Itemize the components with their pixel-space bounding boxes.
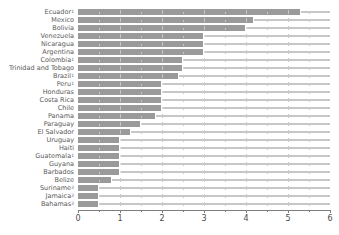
grid-tick <box>246 122 247 126</box>
grid-tick <box>141 204 142 206</box>
bar <box>78 121 141 127</box>
bar-row <box>78 128 330 136</box>
bar-row <box>78 160 330 168</box>
grid-tick <box>246 146 247 150</box>
grid-tick <box>99 204 100 206</box>
grid-tick <box>99 148 100 150</box>
category-label: Argentina <box>0 48 76 56</box>
grid-tick <box>99 12 100 14</box>
grid-tick <box>246 42 247 46</box>
grid-tick <box>225 36 226 38</box>
grid-tick <box>183 92 184 94</box>
grid-tick <box>183 164 184 166</box>
grid-tick <box>267 92 268 94</box>
grid-tick <box>267 68 268 70</box>
grid-tick <box>141 68 142 70</box>
grid-tick <box>162 170 163 174</box>
grid-tick <box>246 154 247 158</box>
grid-tick <box>246 50 247 54</box>
bar-row <box>78 200 330 208</box>
grid-tick <box>120 66 121 70</box>
grid-tick <box>141 100 142 102</box>
grid-tick <box>225 60 226 62</box>
grid-tick <box>120 130 121 134</box>
grid-tick <box>225 108 226 110</box>
bar-row <box>78 80 330 88</box>
grid-tick <box>141 124 142 126</box>
grid-tick <box>288 202 289 206</box>
bar-row <box>78 136 330 144</box>
grid-tick <box>204 130 205 134</box>
grid-tick <box>162 42 163 46</box>
bar-row <box>78 104 330 112</box>
grid-tick <box>309 116 310 118</box>
grid-tick <box>183 204 184 206</box>
grid-tick <box>183 12 184 14</box>
grid-tick <box>120 26 121 30</box>
grid-tick <box>204 154 205 158</box>
bar-row <box>78 96 330 104</box>
grid-tick <box>204 66 205 70</box>
grid-tick <box>246 138 247 142</box>
bar-row <box>78 88 330 96</box>
category-label: Bolivia <box>0 24 76 32</box>
grid-tick <box>99 132 100 134</box>
grid-tick <box>120 162 121 166</box>
grid-tick <box>120 194 121 198</box>
grid-tick <box>141 20 142 22</box>
grid-tick <box>225 196 226 198</box>
grid-tick <box>309 172 310 174</box>
grid-tick <box>99 60 100 62</box>
grid-tick <box>288 10 289 14</box>
grid-tick <box>309 44 310 46</box>
grid-tick <box>288 18 289 22</box>
grid-tick <box>267 28 268 30</box>
grid-tick <box>267 132 268 134</box>
bar-row <box>78 120 330 128</box>
bar <box>78 193 99 199</box>
grid-tick <box>267 140 268 142</box>
grid-tick <box>99 84 100 86</box>
grid-tick <box>288 114 289 118</box>
grid-tick <box>141 52 142 54</box>
grid-tick <box>288 146 289 150</box>
category-label: Peru1 <box>0 80 76 88</box>
grid-tick <box>120 82 121 86</box>
x-axis-minor-tick <box>141 210 142 212</box>
grid-tick <box>162 146 163 150</box>
grid-tick <box>246 82 247 86</box>
grid-tick <box>141 60 142 62</box>
x-axis-major-tick <box>330 210 331 213</box>
grid-tick <box>141 108 142 110</box>
grid-tick <box>183 188 184 190</box>
grid-tick <box>225 76 226 78</box>
grid-tick <box>162 66 163 70</box>
grid-tick <box>225 124 226 126</box>
grid-tick <box>99 188 100 190</box>
grid-tick <box>225 84 226 86</box>
category-label: El Salvador <box>0 128 76 136</box>
grid-tick <box>267 124 268 126</box>
bar-row <box>78 112 330 120</box>
grid-tick <box>141 148 142 150</box>
grid-tick <box>246 10 247 14</box>
grid-tick <box>309 92 310 94</box>
x-axis-tick-label: 4 <box>243 215 248 223</box>
plot-area <box>78 8 330 208</box>
grid-tick <box>309 84 310 86</box>
bar-row <box>78 168 330 176</box>
grid-tick <box>204 50 205 54</box>
grid-tick <box>267 196 268 198</box>
grid-tick <box>99 52 100 54</box>
grid-tick <box>204 74 205 78</box>
bar <box>78 57 183 63</box>
bar-row <box>78 184 330 192</box>
category-label: Trinidad and Tobago <box>0 64 76 72</box>
grid-tick <box>309 12 310 14</box>
grid-tick <box>162 90 163 94</box>
grid-tick <box>120 178 121 182</box>
x-axis-major-tick <box>246 210 247 213</box>
grid-tick <box>162 26 163 30</box>
category-label: Panama <box>0 112 76 120</box>
grid-tick <box>204 186 205 190</box>
